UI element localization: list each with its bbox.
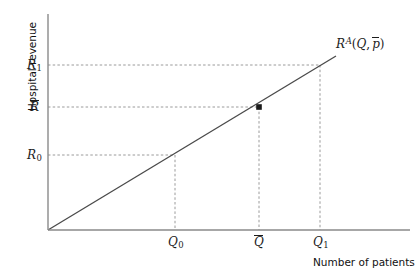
curve-label: RA(Q,p): [336, 37, 385, 50]
x-tick-Q1-base: Q: [313, 235, 323, 249]
chart-figure: Hospital revenue R1 R R0 Q0 Q Q1 RA(Q,p)…: [0, 0, 418, 280]
y-tick-label-R1: R1: [27, 59, 42, 72]
x-tick-Q0-base: Q: [168, 235, 178, 249]
point-marker-qbar-rbar: [256, 104, 262, 110]
x-tick-Q0-subscript: 0: [178, 240, 184, 250]
y-tick-label-Rbar: R: [30, 101, 39, 113]
x-tick-Qbar-base: Q: [254, 236, 264, 248]
x-tick-Q1-subscript: 1: [323, 240, 329, 250]
curve-label-superscript: A: [345, 36, 352, 46]
curve-label-close-paren: ): [380, 37, 385, 51]
y-tick-Rbar-base: R: [30, 101, 39, 113]
y-tick-R0-base: R: [27, 148, 36, 162]
y-tick-R1-base: R: [27, 58, 36, 72]
curve-label-arg1: Q: [356, 37, 366, 51]
x-tick-label-Q0: Q0: [168, 236, 184, 249]
curve-label-arg2: p: [372, 38, 380, 50]
revenue-line: [48, 56, 336, 230]
x-tick-label-Q1: Q1: [313, 236, 329, 249]
x-axis-title: Number of patients: [313, 257, 415, 268]
x-tick-label-Qbar: Q: [254, 236, 264, 248]
curve-label-base: R: [336, 37, 345, 51]
y-tick-R1-subscript: 1: [36, 63, 42, 73]
curve-label-comma: ,: [366, 37, 370, 51]
y-tick-label-R0: R0: [27, 149, 42, 162]
y-tick-R0-subscript: 0: [36, 153, 42, 163]
